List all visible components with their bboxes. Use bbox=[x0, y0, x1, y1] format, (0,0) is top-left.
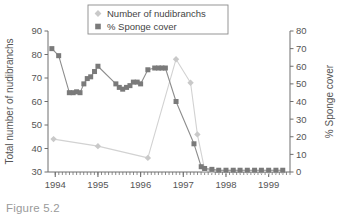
series-nudibranchs bbox=[50, 56, 286, 175]
x-tick-label: 1999 bbox=[258, 179, 279, 190]
y-tick-label-left: 50 bbox=[31, 119, 42, 130]
data-point-marker bbox=[245, 168, 250, 173]
y-tick-label-left: 60 bbox=[31, 96, 42, 107]
data-point-marker bbox=[187, 80, 193, 86]
data-point-marker bbox=[259, 168, 264, 173]
data-point-marker bbox=[81, 81, 86, 86]
y-tick-label-left: 40 bbox=[31, 143, 42, 154]
legend-item-label: % Sponge cover bbox=[107, 21, 177, 32]
figure-container: 3040506070809001020304050607080199419951… bbox=[0, 0, 346, 224]
data-point-marker bbox=[145, 155, 151, 161]
y-tick-label-right: 50 bbox=[296, 78, 307, 89]
data-point-marker bbox=[238, 168, 243, 173]
data-point-marker bbox=[231, 168, 236, 173]
data-point-marker bbox=[92, 69, 97, 74]
data-point-marker bbox=[191, 141, 196, 146]
y-axis-title-left: Total number of nudibranchs bbox=[4, 38, 15, 164]
y-tick-label-right: 40 bbox=[296, 96, 307, 107]
x-tick-label: 1995 bbox=[87, 179, 108, 190]
data-point-marker bbox=[174, 99, 179, 104]
legend-marker-square-icon bbox=[95, 24, 101, 30]
data-point-marker bbox=[202, 166, 207, 171]
data-point-marker bbox=[49, 46, 54, 51]
data-point-marker bbox=[78, 90, 83, 95]
figure-caption: Figure 5.2 bbox=[6, 202, 60, 214]
legend: Number of nudibranchs% Sponge cover bbox=[88, 5, 228, 34]
legend-item-label: Number of nudibranchs bbox=[107, 8, 206, 19]
y-tick-label-right: 10 bbox=[296, 149, 307, 160]
y-tick-label-right: 0 bbox=[296, 166, 301, 177]
data-point-marker bbox=[194, 131, 200, 137]
y-axis-title-right: % Sponge cover bbox=[324, 64, 335, 138]
data-point-marker bbox=[56, 53, 61, 58]
data-point-marker bbox=[216, 168, 221, 173]
data-point-marker bbox=[138, 81, 143, 86]
y-tick-label-right: 60 bbox=[296, 61, 307, 72]
data-point-marker bbox=[273, 168, 278, 173]
y-tick-label-left: 30 bbox=[31, 166, 42, 177]
y-tick-label-left: 90 bbox=[31, 25, 42, 36]
x-tick-label: 1994 bbox=[45, 179, 66, 190]
y-tick-label-left: 70 bbox=[31, 72, 42, 83]
data-point-marker bbox=[95, 143, 101, 149]
data-point-marker bbox=[173, 56, 179, 62]
data-point-marker bbox=[209, 167, 214, 172]
x-tick-label: 1996 bbox=[130, 179, 151, 190]
chart-canvas: 3040506070809001020304050607080199419951… bbox=[0, 0, 346, 200]
series-sponge bbox=[49, 46, 285, 173]
x-tick-label: 1998 bbox=[215, 179, 236, 190]
data-point-marker bbox=[88, 74, 93, 79]
data-point-marker bbox=[163, 66, 168, 71]
data-point-marker bbox=[145, 67, 150, 72]
data-point-marker bbox=[266, 168, 271, 173]
y-tick-label-right: 30 bbox=[296, 114, 307, 125]
data-point-marker bbox=[223, 168, 228, 173]
data-point-marker bbox=[252, 168, 257, 173]
data-point-marker bbox=[50, 136, 56, 142]
y-tick-label-right: 70 bbox=[296, 43, 307, 54]
data-point-marker bbox=[95, 64, 100, 69]
y-tick-label-right: 20 bbox=[296, 131, 307, 142]
data-point-marker bbox=[280, 168, 285, 173]
y-tick-label-right: 80 bbox=[296, 25, 307, 36]
x-tick-label: 1997 bbox=[173, 179, 194, 190]
y-tick-label-left: 80 bbox=[31, 49, 42, 60]
